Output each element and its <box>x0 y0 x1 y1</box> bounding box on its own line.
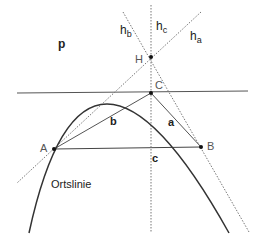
label-hc: hc <box>156 19 168 35</box>
parallel-line-through-c <box>17 91 248 93</box>
label-side-c: c <box>152 152 158 164</box>
label-ha: ha <box>190 29 202 45</box>
point-h-marker <box>149 55 153 59</box>
side-c-segment <box>54 147 201 149</box>
altitude-hb-line <box>123 12 249 232</box>
label-h-orthocenter: H <box>135 53 143 65</box>
label-p: p <box>58 37 65 51</box>
altitude-ha-line <box>17 12 201 183</box>
point-b-marker <box>199 145 203 149</box>
label-side-a: a <box>168 116 175 128</box>
label-point-c: C <box>155 79 163 91</box>
label-point-b: B <box>207 140 214 152</box>
label-side-b: b <box>110 115 117 127</box>
side-a-segment <box>151 93 201 147</box>
diagram-svg: p hb hc ha H C A B a b c Ortslinie <box>0 0 260 245</box>
parabola-locus-curve <box>29 104 229 233</box>
point-c-marker <box>149 91 153 95</box>
label-ortslinie: Ortslinie <box>51 178 91 190</box>
geometry-diagram: p hb hc ha H C A B a b c Ortslinie <box>0 0 260 245</box>
point-a-marker <box>52 147 56 151</box>
side-b-segment <box>54 93 151 149</box>
label-hb: hb <box>120 23 132 39</box>
label-point-a: A <box>40 142 48 154</box>
